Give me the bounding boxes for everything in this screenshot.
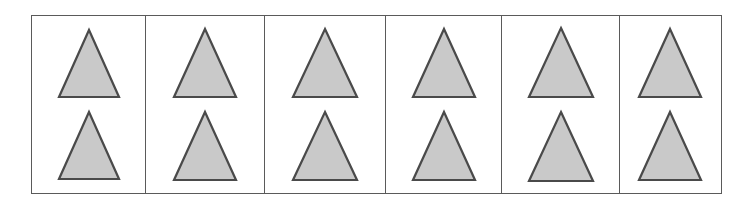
- triangle-icon: [291, 27, 359, 99]
- triangle-icon: [527, 26, 595, 99]
- triangle-icon: [411, 27, 477, 99]
- triangle-slot-r2c2: [146, 110, 264, 182]
- triangle-slot-r1c5: [502, 26, 619, 99]
- triangle-slot-r1c4: [386, 27, 501, 99]
- triangle-slot-r1c6: [620, 27, 720, 99]
- triangle-slot-r2c3: [265, 110, 385, 182]
- triangle-slot-r1c3: [265, 27, 385, 99]
- triangle-icon: [411, 110, 477, 182]
- triangle-slot-r1c2: [146, 27, 264, 99]
- triangle-icon: [637, 110, 703, 182]
- grid-cell-3[interactable]: [265, 16, 386, 193]
- triangle-slot-r1c1: [32, 28, 145, 99]
- triangle-icon: [527, 110, 595, 183]
- grid-cell-5[interactable]: [502, 16, 620, 193]
- grid-cell-2[interactable]: [146, 16, 265, 193]
- triangle-icon: [172, 27, 238, 99]
- triangle-slot-r2c5: [502, 110, 619, 183]
- triangle-icon: [57, 28, 121, 99]
- triangle-icon: [172, 110, 238, 182]
- triangle-icon: [637, 27, 703, 99]
- triangle-icon: [291, 110, 359, 182]
- triangle-grid-frame: [31, 15, 722, 194]
- triangle-slot-r2c6: [620, 110, 720, 182]
- triangle-icon: [57, 110, 121, 181]
- triangle-slot-r2c4: [386, 110, 501, 182]
- figure-canvas: [0, 0, 753, 209]
- grid-cell-4[interactable]: [386, 16, 502, 193]
- triangle-slot-r2c1: [32, 110, 145, 181]
- grid-cell-6[interactable]: [620, 16, 720, 193]
- grid-cell-1[interactable]: [32, 16, 146, 193]
